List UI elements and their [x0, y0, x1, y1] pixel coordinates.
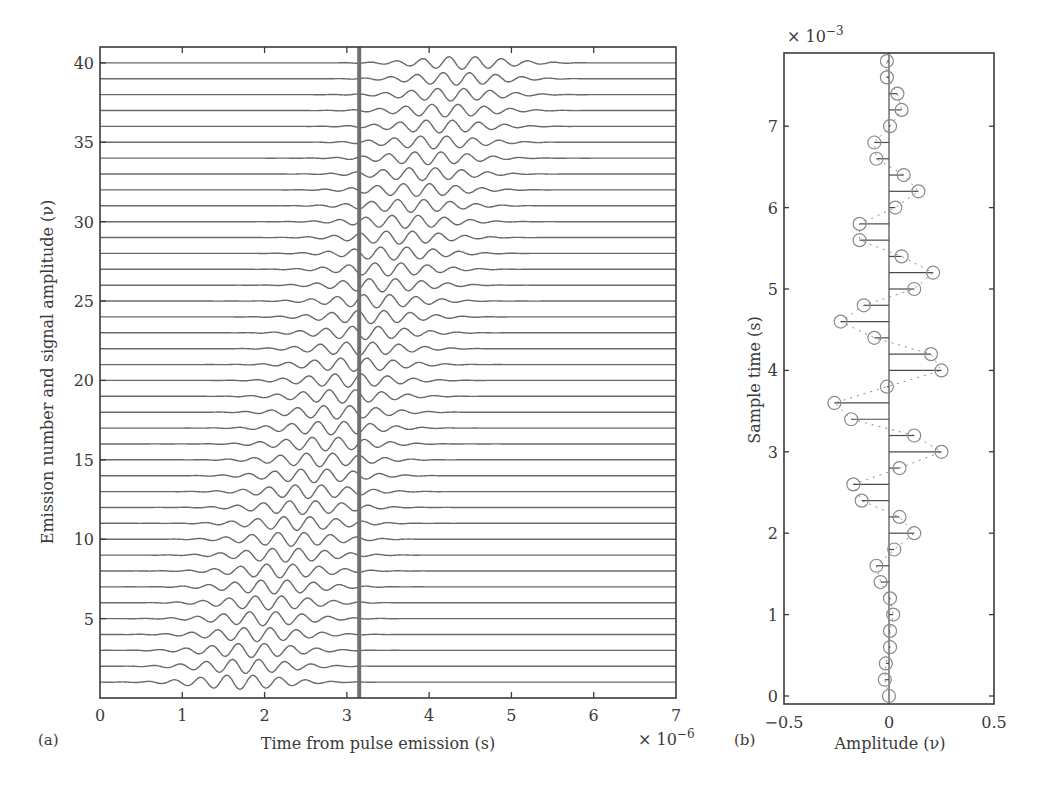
- panel-b-y-axis-label: Sample time (s): [745, 316, 764, 444]
- exponent-power: −6: [677, 727, 695, 741]
- underlying-waveform: [834, 61, 941, 696]
- signal-trace-emission-39: [100, 73, 676, 85]
- signal-trace-emission-23: [100, 326, 676, 339]
- signal-trace-emission-26: [100, 279, 676, 292]
- panel-a-label: (a): [38, 731, 59, 749]
- y-tick-label: 30: [74, 213, 94, 232]
- signal-trace-emission-36: [100, 120, 676, 133]
- y-tick-label: 6: [768, 199, 778, 218]
- signal-trace-emission-2: [100, 659, 676, 673]
- signal-trace-emission-17: [100, 422, 676, 435]
- signal-trace-emission-34: [100, 152, 676, 165]
- y-tick-label: 1: [768, 606, 778, 625]
- figure: 01234567510152025303540 Time from pulse …: [0, 0, 1038, 791]
- signal-trace-emission-21: [100, 358, 676, 371]
- signal-trace-emission-35: [100, 136, 676, 149]
- panel-a-x-axis-label: Time from pulse emission (s): [261, 734, 495, 753]
- panel-a-y-axis-label: Emission number and signal amplitude (ν): [38, 200, 57, 544]
- x-tick-label: 0: [95, 706, 105, 725]
- signal-trace-emission-5: [100, 612, 676, 626]
- signal-trace-emission-12: [100, 501, 676, 515]
- signal-trace-emission-15: [100, 453, 676, 466]
- signal-trace-emission-7: [100, 580, 676, 594]
- y-tick-label: 2: [768, 524, 778, 543]
- signal-trace-emission-8: [100, 564, 676, 578]
- signal-trace-emission-19: [100, 390, 676, 403]
- panel-a: 01234567510152025303540 Time from pulse …: [38, 47, 695, 753]
- exponent-base: × 10: [787, 27, 826, 46]
- signal-trace-emission-29: [100, 231, 676, 244]
- x-tick-label: 0: [884, 713, 894, 732]
- exponent-power: −3: [826, 24, 844, 38]
- panel-a-x-exponent: × 10−6: [638, 727, 695, 749]
- x-tick-label: 4: [424, 706, 434, 725]
- signal-trace-emission-14: [100, 469, 676, 483]
- y-tick-label: 10: [74, 530, 94, 549]
- exponent-base: × 10: [638, 730, 677, 749]
- x-tick-label: 0.5: [981, 713, 1006, 732]
- signal-trace-emission-32: [100, 184, 676, 197]
- y-tick-label: 35: [74, 133, 94, 152]
- signal-trace-emission-4: [100, 628, 676, 642]
- signal-trace-emission-9: [100, 548, 676, 562]
- signal-trace-emission-16: [100, 437, 676, 450]
- panel-b-y-exponent: × 10−3: [787, 24, 844, 46]
- y-tick-label: 3: [768, 443, 778, 462]
- signal-trace-emission-30: [100, 215, 676, 228]
- signal-trace-emission-1: [100, 675, 676, 689]
- signal-trace-emission-22: [100, 342, 676, 355]
- panel-b-x-axis-label: Amplitude (ν): [834, 734, 946, 753]
- y-tick-label: 20: [74, 371, 94, 390]
- y-tick-label: 5: [768, 280, 778, 299]
- signal-trace-emission-37: [100, 104, 676, 117]
- x-tick-label: 7: [671, 706, 681, 725]
- y-tick-label: 4: [768, 361, 778, 380]
- signal-trace-emission-10: [100, 533, 676, 547]
- y-tick-label: 5: [84, 610, 94, 629]
- signal-trace-emission-6: [100, 596, 676, 610]
- signal-trace-emission-13: [100, 485, 676, 499]
- panel-a-ticks: 01234567510152025303540: [74, 47, 681, 725]
- x-tick-label: −0.5: [765, 713, 804, 732]
- y-tick-label: 25: [74, 292, 94, 311]
- y-tick-label: 40: [74, 54, 94, 73]
- panel-b: −0.500.501234567 Amplitude (ν) Sample ti…: [734, 24, 1007, 753]
- signal-trace-emission-27: [100, 263, 676, 276]
- signal-trace-emission-33: [100, 168, 676, 181]
- x-tick-label: 3: [342, 706, 352, 725]
- signal-trace-emission-11: [100, 517, 676, 531]
- signal-trace-emission-38: [100, 89, 676, 102]
- signal-trace-emission-3: [100, 644, 676, 658]
- signal-trace-emission-18: [100, 406, 676, 419]
- x-tick-label: 5: [506, 706, 516, 725]
- panel-a-frame: [100, 47, 676, 698]
- x-tick-label: 6: [589, 706, 599, 725]
- signal-trace-emission-24: [100, 311, 676, 324]
- signal-trace-emission-25: [100, 295, 676, 308]
- signal-trace-emission-40: [100, 57, 676, 69]
- y-tick-label: 0: [768, 687, 778, 706]
- signal-traces: [100, 57, 676, 690]
- x-tick-label: 1: [177, 706, 187, 725]
- signal-trace-emission-31: [100, 200, 676, 213]
- x-tick-label: 2: [259, 706, 269, 725]
- y-tick-label: 15: [74, 451, 94, 470]
- signal-trace-emission-28: [100, 247, 676, 260]
- stem-plot: [828, 53, 948, 704]
- panel-b-ticks: −0.500.501234567: [765, 117, 1007, 732]
- signal-trace-emission-20: [100, 374, 676, 387]
- panel-b-label: (b): [734, 731, 755, 749]
- y-tick-label: 7: [768, 117, 778, 136]
